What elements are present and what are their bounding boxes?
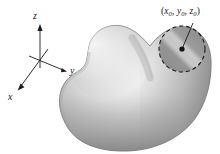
point-label-x: x [164, 6, 168, 16]
axis-label-z: z [33, 11, 37, 21]
point-label-close-paren: ) [197, 6, 200, 16]
point-dot [179, 46, 184, 51]
figure-canvas [0, 0, 220, 154]
axis-label-x: x [8, 92, 12, 102]
axis-y-arrowhead [61, 68, 67, 72]
point-label-x-subscript: 0 [169, 10, 172, 17]
axis-x-line [21, 49, 48, 86]
coordinate-axes [18, 24, 67, 91]
point-coordinate-label: (x0, y0, z0) [161, 7, 200, 17]
axis-label-y: y [70, 66, 74, 76]
point-label-y-subscript: 0 [181, 10, 184, 17]
point-label-z-subscript: 0 [193, 10, 196, 17]
axis-x [18, 49, 48, 91]
figure-container: z y x (x0, y0, z0) [0, 0, 220, 154]
axis-y [29, 56, 67, 72]
axis-x-arrowhead [18, 84, 25, 91]
axis-z-arrowhead [37, 24, 42, 31]
